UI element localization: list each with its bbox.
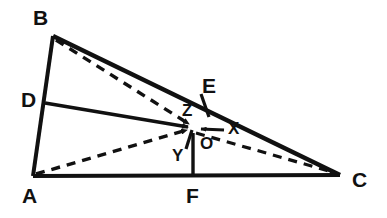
cevian-BZ	[56, 40, 189, 124]
point-label-B: B	[33, 7, 48, 28]
side-BC	[53, 36, 340, 175]
tick-at-E	[201, 94, 209, 117]
point-label-O: O	[200, 135, 213, 152]
geometry-diagram: A B C D E F O X Y Z	[0, 0, 387, 218]
tick-at-Y	[186, 130, 192, 149]
point-label-E: E	[202, 75, 216, 96]
point-label-A: A	[22, 185, 37, 206]
point-label-X: X	[228, 120, 239, 137]
point-label-Z: Z	[182, 102, 192, 119]
point-label-Y: Y	[172, 147, 183, 164]
point-label-C: C	[352, 169, 367, 190]
point-label-D: D	[21, 89, 36, 110]
segment-DZ	[45, 103, 188, 127]
side-AC	[33, 175, 340, 176]
point-label-F: F	[186, 185, 199, 206]
cevian-AZ	[36, 130, 187, 174]
arrow-X-to-O	[201, 129, 224, 130]
